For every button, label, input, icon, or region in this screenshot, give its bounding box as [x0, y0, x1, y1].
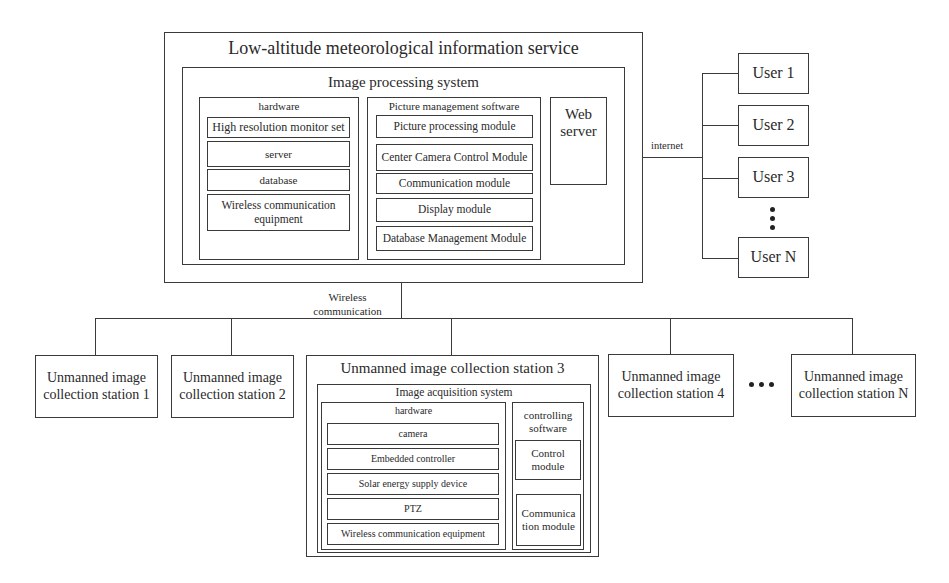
- hw-monitor-set: High resolution monitor set: [207, 117, 350, 138]
- wireless-label: Wireless communication: [300, 290, 395, 319]
- ellipsis-dot-icon: [769, 382, 774, 387]
- ellipsis-dot-icon: [759, 382, 764, 387]
- station3-connector: [451, 318, 452, 355]
- station-2-box: Unmanned image collection station 2: [171, 355, 294, 418]
- service-title: Low-altitude meteorological information …: [165, 38, 642, 59]
- image-processing-title: Image processing system: [183, 74, 624, 91]
- hw-server: server: [207, 141, 350, 167]
- acq-software-title: controlling software: [513, 409, 583, 434]
- internet-link: [643, 157, 703, 158]
- station4-connector: [670, 318, 671, 355]
- acq-ptz: PTZ: [327, 498, 499, 520]
- ips-hardware-title: hardware: [200, 100, 358, 113]
- ellipsis-dot-icon: [749, 382, 754, 387]
- sw-display: Display module: [376, 198, 533, 222]
- wireless-trunk: [401, 283, 402, 319]
- station-4-box: Unmanned image collection station 4: [608, 354, 734, 417]
- acquisition-system-title: Image acquisition system: [318, 386, 590, 399]
- ellipsis-dot-icon: [770, 216, 775, 221]
- user2-connector: [702, 125, 738, 126]
- acq-control-module: Control module: [515, 440, 581, 480]
- user1-connector: [702, 73, 738, 74]
- acq-embedded-controller: Embedded controller: [327, 448, 499, 470]
- acq-hardware-title: hardware: [322, 405, 505, 417]
- web-server-label: Web server: [551, 106, 606, 141]
- station-1-box: Unmanned image collection station 1: [35, 355, 158, 418]
- user-n-box: User N: [738, 237, 809, 278]
- hw-wireless-equipment: Wireless communication equipment: [207, 194, 350, 231]
- userN-connector: [702, 258, 738, 259]
- hw-database: database: [207, 169, 350, 191]
- user3-connector: [702, 178, 738, 179]
- user-3-box: User 3: [738, 157, 809, 198]
- wireless-label-text: Wireless communication: [313, 291, 381, 317]
- station1-connector: [95, 318, 96, 355]
- station-n-box: Unmanned image collection station N: [791, 354, 916, 417]
- stations-bus: [95, 318, 853, 319]
- station-3-title: Unmanned image collection station 3: [307, 360, 598, 377]
- acq-solar-supply: Solar energy supply device: [327, 473, 499, 495]
- acq-wireless-equipment: Wireless communication equipment: [327, 523, 499, 545]
- user-2-box: User 2: [738, 105, 809, 146]
- station2-connector: [231, 318, 232, 355]
- sw-database-management: Database Management Module: [376, 226, 533, 251]
- web-server-box: Web server: [550, 97, 607, 185]
- sw-communication: Communication module: [376, 173, 533, 194]
- sw-picture-processing: Picture processing module: [376, 115, 533, 138]
- users-trunk: [702, 73, 703, 259]
- acq-camera: camera: [327, 423, 499, 445]
- ellipsis-dot-icon: [770, 207, 775, 212]
- stationN-connector: [852, 318, 853, 355]
- internet-label: internet: [651, 140, 683, 151]
- acq-communication-module: Communication module: [516, 494, 581, 546]
- ellipsis-dot-icon: [770, 225, 775, 230]
- ips-software-title: Picture management software: [368, 100, 540, 113]
- sw-center-camera-control: Center Camera Control Module: [376, 144, 533, 171]
- user-1-box: User 1: [738, 53, 809, 94]
